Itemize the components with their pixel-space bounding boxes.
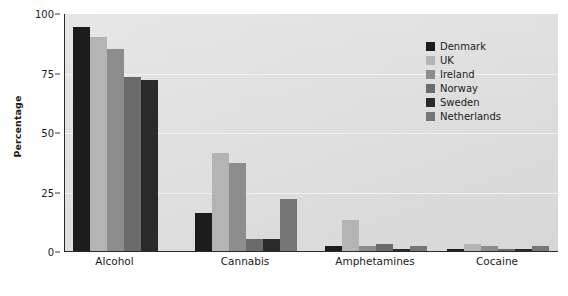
bar <box>107 49 124 251</box>
legend-swatch-icon <box>426 56 435 65</box>
y-tick-label: 0 <box>48 247 54 258</box>
y-axis-title: Percentage <box>6 0 28 252</box>
bar <box>464 244 481 251</box>
legend: DenmarkUKIrelandNorwaySwedenNetherlands <box>426 40 501 123</box>
x-axis-label: Alcohol <box>95 255 133 267</box>
y-tick-mark <box>55 252 60 253</box>
legend-swatch-icon <box>426 70 435 79</box>
legend-swatch-icon <box>426 98 435 107</box>
bar <box>498 249 515 251</box>
legend-swatch-icon <box>426 42 435 51</box>
legend-item[interactable]: Ireland <box>426 68 501 81</box>
legend-label: Ireland <box>440 70 475 80</box>
y-tick-mark <box>55 133 60 134</box>
bar <box>246 239 263 251</box>
bar <box>410 246 427 251</box>
y-tick-mark <box>55 192 60 193</box>
bar <box>124 77 141 251</box>
legend-label: Sweden <box>440 98 480 108</box>
y-axis-title-text: Percentage <box>12 95 23 157</box>
bar <box>195 213 212 251</box>
bar <box>393 249 410 251</box>
legend-swatch-icon <box>426 112 435 121</box>
legend-item[interactable]: Norway <box>426 82 501 95</box>
bar <box>212 153 229 251</box>
bar-chart: Percentage 0255075100 AlcoholCannabisAmp… <box>0 0 568 296</box>
bar <box>141 80 158 251</box>
bar <box>515 249 532 251</box>
y-tick-mark <box>55 73 60 74</box>
legend-label: Norway <box>440 84 478 94</box>
legend-item[interactable]: UK <box>426 54 501 67</box>
legend-label: UK <box>440 56 454 66</box>
y-axis-ticks: 0255075100 <box>26 14 60 252</box>
y-tick-label: 50 <box>41 128 54 139</box>
legend-item[interactable]: Sweden <box>426 96 501 109</box>
legend-swatch-icon <box>426 84 435 93</box>
bar <box>73 27 90 251</box>
legend-item[interactable]: Netherlands <box>426 110 501 123</box>
bar <box>280 199 297 251</box>
bar <box>376 244 393 251</box>
x-axis-label: Cocaine <box>476 255 518 267</box>
x-axis-label: Cannabis <box>221 255 270 267</box>
bar <box>325 246 342 251</box>
bar <box>342 220 359 251</box>
bar <box>359 246 376 251</box>
legend-label: Netherlands <box>440 112 501 122</box>
y-tick-mark <box>55 14 60 15</box>
bar <box>532 246 549 251</box>
y-tick-label: 25 <box>41 187 54 198</box>
legend-label: Denmark <box>440 42 486 52</box>
y-tick-label: 100 <box>35 9 54 20</box>
bar <box>447 249 464 251</box>
x-axis-labels: AlcoholCannabisAmphetaminesCocaine <box>64 255 558 275</box>
bar <box>481 246 498 251</box>
x-axis-label: Amphetamines <box>335 255 414 267</box>
y-tick-label: 75 <box>41 68 54 79</box>
bar <box>229 163 246 251</box>
bar <box>263 239 280 251</box>
bar <box>90 37 107 251</box>
legend-item[interactable]: Denmark <box>426 40 501 53</box>
